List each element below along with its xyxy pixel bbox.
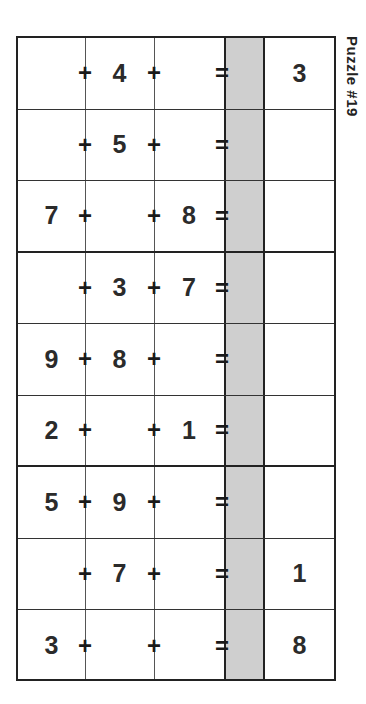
plus-sign: + — [147, 418, 161, 442]
plus-sign: + — [147, 562, 161, 586]
addend-3-cell[interactable] — [154, 38, 224, 109]
plus-sign: + — [78, 347, 92, 371]
sum-cell[interactable]: 8 — [265, 610, 334, 682]
addend-1-cell[interactable]: 3 — [18, 610, 85, 682]
addend-2-cell[interactable]: 4 — [85, 38, 154, 109]
puzzle-row: 71++= — [18, 539, 334, 611]
plus-sign: + — [78, 204, 92, 228]
addend-2-cell[interactable] — [85, 610, 154, 682]
addend-2-cell[interactable]: 3 — [85, 253, 154, 324]
addend-2-cell[interactable]: 8 — [85, 324, 154, 395]
addend-1-cell[interactable] — [18, 253, 85, 324]
plus-sign: + — [78, 490, 92, 514]
sum-cell[interactable]: 1 — [265, 539, 334, 610]
puzzle-title: Puzzle #19 — [344, 36, 361, 117]
addend-3-cell[interactable] — [154, 324, 224, 395]
plus-sign: + — [147, 204, 161, 228]
puzzle-row: 37++= — [18, 253, 334, 325]
plus-sign: + — [78, 634, 92, 658]
puzzle-row: 98++= — [18, 324, 334, 396]
plus-sign: + — [147, 133, 161, 157]
plus-sign: + — [147, 61, 161, 85]
sum-cell[interactable]: 3 — [265, 38, 334, 109]
sum-cell[interactable] — [265, 467, 334, 538]
puzzle-row: 78++= — [18, 181, 334, 253]
plus-sign: + — [78, 276, 92, 300]
addend-2-cell[interactable]: 9 — [85, 467, 154, 538]
addend-1-cell[interactable]: 5 — [18, 467, 85, 538]
plus-sign: + — [147, 347, 161, 371]
equals-sign: = — [215, 276, 229, 300]
addend-3-cell[interactable]: 7 — [154, 253, 224, 324]
addend-1-cell[interactable]: 7 — [18, 181, 85, 251]
plus-sign: + — [78, 61, 92, 85]
puzzle-grid: 43++=5++=78++=37++=98++=21++=59++=71++=3… — [16, 36, 336, 681]
puzzle-row: 43++= — [18, 38, 334, 110]
addend-1-cell[interactable] — [18, 539, 85, 610]
addend-2-cell[interactable]: 7 — [85, 539, 154, 610]
plus-sign: + — [147, 276, 161, 300]
puzzle-row: 59++= — [18, 467, 334, 539]
addend-3-cell[interactable] — [154, 610, 224, 682]
addend-3-cell[interactable] — [154, 539, 224, 610]
addend-3-cell[interactable]: 8 — [154, 181, 224, 251]
sum-cell[interactable] — [265, 110, 334, 181]
puzzle-row: 21++= — [18, 396, 334, 468]
addend-1-cell[interactable] — [18, 38, 85, 109]
puzzle-row: 38++= — [18, 610, 334, 682]
puzzle-row: 5++= — [18, 110, 334, 182]
addend-2-cell[interactable]: 5 — [85, 110, 154, 181]
plus-sign: + — [147, 490, 161, 514]
addend-3-cell[interactable] — [154, 467, 224, 538]
plus-sign: + — [78, 133, 92, 157]
equals-sign: = — [215, 634, 229, 658]
equals-sign: = — [215, 490, 229, 514]
equals-sign: = — [215, 347, 229, 371]
equals-sign: = — [215, 61, 229, 85]
plus-sign: + — [78, 418, 92, 442]
equals-sign: = — [215, 562, 229, 586]
equals-sign: = — [215, 133, 229, 157]
plus-sign: + — [147, 634, 161, 658]
addend-3-cell[interactable]: 1 — [154, 396, 224, 466]
equals-sign: = — [215, 418, 229, 442]
sum-cell[interactable] — [265, 181, 334, 251]
addend-1-cell[interactable]: 2 — [18, 396, 85, 466]
sum-cell[interactable] — [265, 253, 334, 324]
sum-cell[interactable] — [265, 396, 334, 466]
addend-1-cell[interactable] — [18, 110, 85, 181]
sum-cell[interactable] — [265, 324, 334, 395]
addend-2-cell[interactable] — [85, 396, 154, 466]
plus-sign: + — [78, 562, 92, 586]
addend-3-cell[interactable] — [154, 110, 224, 181]
equals-sign: = — [215, 204, 229, 228]
addend-2-cell[interactable] — [85, 181, 154, 251]
addend-1-cell[interactable]: 9 — [18, 324, 85, 395]
